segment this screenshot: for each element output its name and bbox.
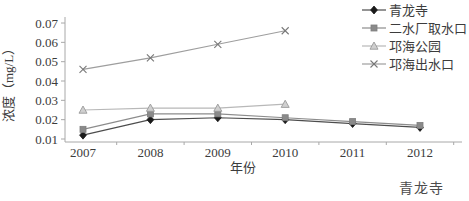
y-tick-label: 0.04 bbox=[35, 74, 58, 89]
x-axis-title: 年份 bbox=[230, 160, 256, 175]
chart-figure: 0.010.020.030.040.050.060.07200720082009… bbox=[0, 0, 469, 201]
caption-qinglongsi: 青龙寺 bbox=[399, 181, 444, 196]
chart-plot-area: 0.010.020.030.040.050.060.07200720082009… bbox=[35, 3, 467, 161]
line-chart: 0.010.020.030.040.050.060.07200720082009… bbox=[0, 0, 469, 201]
series-line bbox=[83, 104, 285, 110]
y-tick-label: 0.07 bbox=[35, 16, 58, 31]
legend-marker bbox=[371, 6, 378, 14]
legend-label: 邛海公园 bbox=[389, 39, 441, 54]
y-tick-label: 0.01 bbox=[35, 132, 58, 147]
data-point-marker bbox=[147, 111, 153, 117]
data-point-marker bbox=[215, 111, 221, 117]
data-point-marker bbox=[350, 119, 356, 125]
series-line bbox=[83, 118, 420, 135]
data-point-marker bbox=[417, 122, 423, 128]
y-axis-title: 浓度（mg/L） bbox=[1, 42, 16, 122]
x-tick-label: 2008 bbox=[137, 145, 163, 160]
y-tick-label: 0.02 bbox=[35, 112, 58, 127]
legend-label: 二水厂取水口 bbox=[389, 21, 467, 36]
legend-marker bbox=[371, 25, 377, 31]
x-tick-label: 2011 bbox=[340, 145, 366, 160]
x-tick-label: 2012 bbox=[407, 145, 433, 160]
x-tick-label: 2009 bbox=[205, 145, 231, 160]
y-tick-label: 0.03 bbox=[35, 93, 58, 108]
data-point-marker bbox=[282, 115, 288, 121]
series-line bbox=[83, 114, 420, 129]
y-tick-label: 0.05 bbox=[35, 54, 58, 69]
x-tick-label: 2010 bbox=[272, 145, 298, 160]
legend-label: 邛海出水口 bbox=[389, 57, 454, 72]
x-tick-label: 2007 bbox=[70, 145, 97, 160]
data-point-marker bbox=[80, 126, 86, 132]
legend-label: 青龙寺 bbox=[389, 3, 428, 18]
series-line bbox=[83, 31, 285, 70]
y-tick-label: 0.06 bbox=[35, 35, 58, 50]
